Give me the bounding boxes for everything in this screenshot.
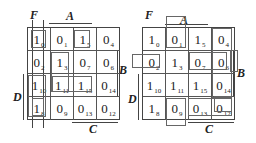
bracket-c bbox=[72, 122, 118, 123]
bracket-d bbox=[138, 74, 139, 120]
group-loop-m0 bbox=[31, 30, 46, 48]
cell-m3: 13 bbox=[166, 51, 189, 74]
group-loop-m9 bbox=[166, 98, 186, 126]
cell-m10: 110 bbox=[143, 74, 166, 97]
label-d: D bbox=[128, 92, 137, 107]
label-d: D bbox=[13, 90, 22, 105]
kmap-left: F A B D C 10 01 15 04 02 13 07 06 110 11… bbox=[0, 0, 128, 143]
cell-m13: 013 bbox=[74, 97, 97, 120]
cell-m2: 02 bbox=[28, 51, 51, 74]
label-b: B bbox=[237, 66, 245, 81]
group-loop-m6-m12 bbox=[230, 50, 238, 72]
group-loop-m2 bbox=[132, 54, 160, 68]
cell-m5: 15 bbox=[189, 28, 212, 51]
bracket-a bbox=[49, 23, 92, 24]
cell-m15: 115 bbox=[189, 74, 212, 97]
bracket-c bbox=[188, 122, 234, 123]
label-a: A bbox=[66, 9, 74, 24]
label-f: F bbox=[145, 8, 153, 23]
cell-m9: 09 bbox=[51, 97, 74, 120]
cell-m8: 18 bbox=[143, 97, 166, 120]
label-b: B bbox=[119, 63, 127, 78]
cell-m6: 06 bbox=[97, 51, 120, 74]
cell-m11: 111 bbox=[166, 74, 189, 97]
group-loop-m5 bbox=[74, 30, 90, 48]
label-c: C bbox=[89, 122, 97, 137]
bracket-d bbox=[23, 74, 24, 120]
group-loop-m1 bbox=[166, 16, 186, 48]
kmap-right: F A B D C 10 01 15 04 02 13 07 06 110 11… bbox=[128, 0, 256, 143]
cell-m4: 04 bbox=[97, 28, 120, 51]
cell-m12: 012 bbox=[97, 97, 120, 120]
group-loop-m12 bbox=[214, 96, 232, 112]
group-loop-m7-m6 bbox=[189, 52, 227, 70]
label-c: C bbox=[205, 122, 213, 137]
cell-m7: 07 bbox=[74, 51, 97, 74]
group-loop-m11-m15 bbox=[52, 76, 92, 92]
cell-m14: 014 bbox=[97, 74, 120, 97]
group-loop-m8 bbox=[32, 98, 44, 116]
cell-m1: 01 bbox=[51, 28, 74, 51]
cell-m0: 10 bbox=[143, 28, 166, 51]
